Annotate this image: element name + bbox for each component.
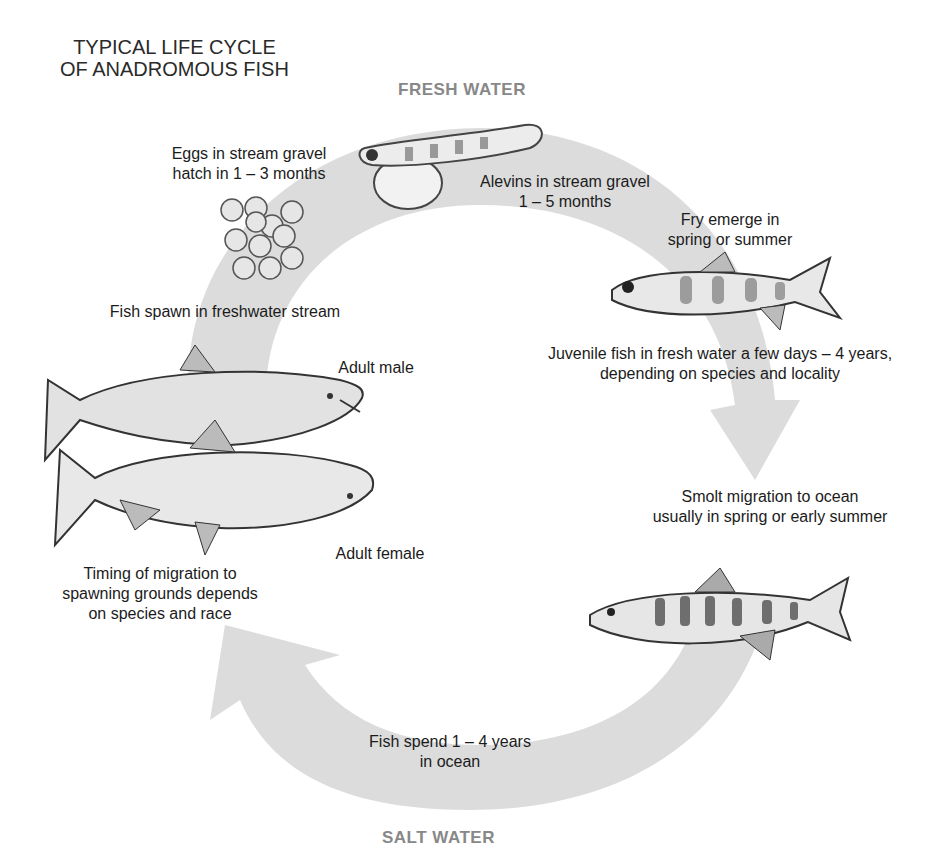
title-line-2: OF ANADROMOUS FISH xyxy=(60,58,289,80)
juvenile-label-line-2: depending on species and locality xyxy=(500,364,940,384)
smolt-label-line-2: usually in spring or early summer xyxy=(625,507,915,527)
eggs-illustration xyxy=(221,197,303,279)
ocean-label-line-1: Fish spend 1 – 4 years xyxy=(350,732,550,752)
fry-label-line-1: Fry emerge in xyxy=(645,210,815,230)
migration-label-line-1: Timing of migration to xyxy=(30,564,290,584)
eggs-label-line-1: Eggs in stream gravel xyxy=(156,144,342,164)
juvenile-label: Juvenile fish in fresh water a few days … xyxy=(500,344,940,384)
fry-label: Fry emerge in spring or summer xyxy=(645,210,815,250)
alevins-label-line-2: 1 – 5 months xyxy=(460,192,670,212)
adult-female-illustration xyxy=(55,420,373,555)
fry-label-line-2: spring or summer xyxy=(645,230,815,250)
migration-timing-label: Timing of migration to spawning grounds … xyxy=(30,564,290,624)
ocean-label-line-2: in ocean xyxy=(350,752,550,772)
juvenile-label-line-1: Juvenile fish in fresh water a few days … xyxy=(500,344,940,364)
fresh-water-label: FRESH WATER xyxy=(398,80,526,100)
ocean-label: Fish spend 1 – 4 years in ocean xyxy=(350,732,550,772)
smolt-label: Smolt migration to ocean usually in spri… xyxy=(625,487,915,527)
migration-label-line-3: on species and race xyxy=(30,604,290,624)
eggs-label: Eggs in stream gravel hatch in 1 – 3 mon… xyxy=(156,144,342,184)
smolt-label-line-1: Smolt migration to ocean xyxy=(625,487,915,507)
migration-label-line-2: spawning grounds depends xyxy=(30,584,290,604)
spawn-label: Fish spawn in freshwater stream xyxy=(80,302,370,322)
alevins-label: Alevins in stream gravel 1 – 5 months xyxy=(460,172,670,212)
alevins-label-line-1: Alevins in stream gravel xyxy=(460,172,670,192)
adult-male-label: Adult male xyxy=(326,358,426,378)
salt-water-label: SALT WATER xyxy=(382,828,495,848)
eggs-label-line-2: hatch in 1 – 3 months xyxy=(156,164,342,184)
adult-female-label: Adult female xyxy=(320,544,440,564)
diagram-title: TYPICAL LIFE CYCLE OF ANADROMOUS FISH xyxy=(60,36,289,80)
title-line-1: TYPICAL LIFE CYCLE xyxy=(60,36,289,58)
